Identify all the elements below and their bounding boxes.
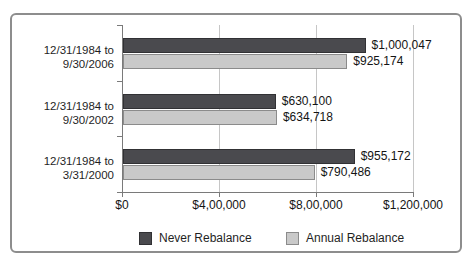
value-label: $790,486: [321, 165, 371, 180]
bar-annual-rebalance: [123, 165, 315, 180]
x-axis-tick: [219, 192, 220, 197]
value-label: $925,174: [353, 54, 403, 69]
legend-item: Never Rebalance: [139, 231, 252, 245]
category-label-line1: 12/31/1984 to: [14, 99, 114, 113]
category-label-line1: 12/31/1984 to: [14, 154, 114, 168]
x-axis-tick: [316, 192, 317, 197]
category-label-line2: 3/31/2000: [14, 168, 114, 182]
category-label-line1: 12/31/1984 to: [14, 43, 114, 57]
x-axis-line: [122, 192, 414, 193]
bar-annual-rebalance: [123, 54, 347, 69]
value-label: $634,718: [283, 110, 333, 125]
bar-never-rebalance: [123, 38, 366, 53]
x-axis-tick-label: $1,200,000: [353, 198, 473, 212]
bar-never-rebalance: [123, 149, 355, 164]
x-axis-tick: [122, 192, 123, 197]
category-label: 12/31/1984 to9/30/2002: [14, 99, 114, 127]
category-label-line2: 9/30/2002: [14, 113, 114, 127]
category-label: 12/31/1984 to3/31/2000: [14, 154, 114, 182]
chart-canvas: $1,000,047$925,17412/31/1984 to9/30/2006…: [0, 0, 474, 265]
value-label: $1,000,047: [372, 38, 432, 53]
category-label: 12/31/1984 to9/30/2006: [14, 43, 114, 71]
legend-label: Annual Rebalance: [306, 231, 404, 245]
value-label: $630,100: [282, 94, 332, 109]
bar-annual-rebalance: [123, 110, 277, 125]
legend-item: Annual Rebalance: [286, 231, 404, 245]
bar-never-rebalance: [123, 94, 276, 109]
legend-swatch-annual-rebalance: [286, 232, 299, 245]
value-label: $955,172: [361, 149, 411, 164]
y-axis-line: [122, 25, 123, 193]
legend-swatch-never-rebalance: [139, 232, 152, 245]
category-label-line2: 9/30/2006: [14, 57, 114, 71]
x-axis-tick: [413, 192, 414, 197]
legend-label: Never Rebalance: [159, 231, 252, 245]
